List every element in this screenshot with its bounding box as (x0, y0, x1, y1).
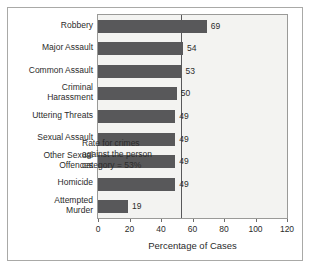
category-label: Uttering Threats (1, 111, 93, 121)
bar-row (98, 178, 287, 191)
bar (98, 87, 177, 100)
bar (98, 110, 175, 123)
bar-value-label: 69 (211, 22, 220, 31)
tick-mark (256, 219, 257, 222)
tick-mark (98, 219, 99, 222)
tick-label: 20 (125, 224, 134, 234)
bar-value-label: 49 (179, 180, 188, 189)
category-axis-labels: RobberyMajor AssaultCommon AssaultCrimin… (0, 14, 93, 219)
annotation-line: Rate for crimes (82, 138, 186, 149)
bar-value-label: 53 (185, 67, 194, 76)
tick-mark (161, 219, 162, 222)
tick-mark (193, 219, 194, 222)
tick-label: 100 (248, 224, 262, 234)
bar-row (98, 110, 287, 123)
category-label: Criminal Harassment (1, 83, 93, 102)
category-label: Homicide (1, 178, 93, 188)
category-label: Major Assault (1, 43, 93, 53)
bar (98, 200, 128, 213)
category-label: Other Sexual Offences (1, 151, 93, 170)
bar-row (98, 200, 287, 213)
x-axis-ticks: 020406080100120 (97, 219, 288, 223)
tick-label: 60 (188, 224, 197, 234)
tick-mark (224, 219, 225, 222)
bar-value-label: 19 (132, 202, 141, 211)
category-label: Attempted Murder (1, 196, 93, 215)
bar (98, 42, 183, 55)
plot-area: 695453504949494919 (97, 14, 288, 219)
x-axis-title: Percentage of Cases (97, 240, 288, 251)
bar-row (98, 20, 287, 33)
category-label: Common Assault (1, 66, 93, 76)
bar (98, 178, 175, 191)
chart-figure: RobberyMajor AssaultCommon AssaultCrimin… (0, 0, 311, 269)
category-label: Sexual Assault (1, 133, 93, 143)
category-label: Robbery (1, 21, 93, 31)
tick-mark (287, 219, 288, 222)
bar-value-label: 54 (187, 44, 196, 53)
bar-value-label: 50 (181, 89, 190, 98)
bar-value-label: 49 (179, 112, 188, 121)
annotation-line: against the person (82, 149, 186, 160)
bar (98, 65, 181, 78)
reference-line-annotation: Rate for crimesagainst the personcategor… (82, 138, 186, 171)
tick-label: 0 (96, 224, 101, 234)
tick-label: 80 (219, 224, 228, 234)
tick-mark (130, 219, 131, 222)
tick-label: 40 (156, 224, 165, 234)
bar-row (98, 87, 287, 100)
tick-label: 120 (280, 224, 294, 234)
annotation-line: category = 53% (82, 160, 186, 171)
bar (98, 20, 207, 33)
